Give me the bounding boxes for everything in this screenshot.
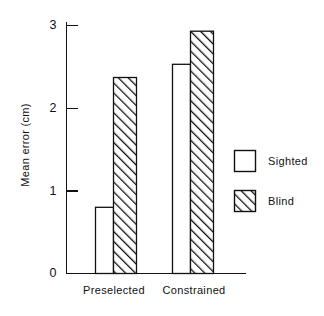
bar-chart-figure: 3 2 1 0 Mean error (cm) Preselected Cons… (0, 0, 324, 316)
bar-constrained-sighted (173, 64, 191, 273)
y-tick-labels: 3 2 1 0 (50, 18, 57, 280)
x-tick-label-constrained: Constrained (162, 284, 225, 296)
legend-entry-sighted: Sighted (235, 151, 308, 172)
axes-group (67, 22, 247, 274)
bar-constrained-blind (191, 31, 214, 273)
y-tick-label-2: 2 (50, 101, 57, 115)
legend-label-sighted: Sighted (268, 155, 308, 167)
legend-entry-blind: Blind (235, 191, 295, 212)
y-tick-label-1: 1 (50, 184, 57, 198)
legend-label-blind: Blind (268, 195, 294, 207)
y-tick-label-3: 3 (50, 18, 57, 32)
bar-group-constrained (173, 31, 214, 273)
bar-preselected-blind (114, 78, 137, 274)
x-tick-label-preselected: Preselected (83, 284, 145, 296)
legend-swatch-blind-icon (235, 191, 256, 212)
x-category-labels: Preselected Constrained (83, 284, 226, 296)
bar-group-preselected (96, 78, 137, 274)
chart-legend: Sighted Blind (235, 151, 308, 212)
y-tick-label-0: 0 (50, 266, 57, 280)
bar-preselected-sighted (96, 207, 114, 273)
y-axis-title: Mean error (cm) (19, 103, 31, 186)
chart-svg: 3 2 1 0 Mean error (cm) Preselected Cons… (0, 0, 324, 316)
legend-swatch-sighted-icon (235, 151, 256, 172)
